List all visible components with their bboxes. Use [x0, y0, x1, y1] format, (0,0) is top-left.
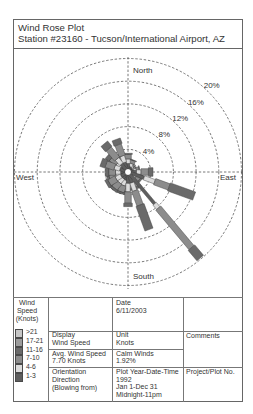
display-label: Display: [52, 331, 90, 339]
date-value: 6/11/2003: [116, 307, 147, 315]
label-east: East: [220, 173, 237, 182]
unit-value: Knots: [116, 339, 134, 347]
orientation-cell: Orientation Direction (Blowing from): [52, 368, 97, 391]
calm-winds-value: 1.92%: [116, 357, 154, 365]
ring-label-12pct: 12%: [172, 114, 188, 123]
table-divider-col3: [183, 297, 184, 402]
legend-title-line: Speed: [13, 307, 41, 315]
avg-wind-speed-value: 7.70 Knots: [52, 357, 106, 365]
project-label: Project/Plot No.: [186, 368, 235, 376]
petal-segment-11-16: [136, 204, 153, 231]
calm-winds-cell: Calm Winds 1.92%: [116, 350, 154, 366]
plot-period-year: 1992: [116, 376, 179, 384]
petal-segment-4-6: [143, 176, 155, 184]
legend-swatch-4-6: [15, 364, 23, 373]
display-cell: Display Wind Speed: [52, 331, 90, 347]
label-south: South: [133, 272, 154, 281]
ring-label-8pct: 8%: [159, 130, 171, 139]
label-north: North: [133, 66, 153, 75]
avg-wind-speed-label: Avg. Wind Speed: [52, 350, 106, 358]
petal-segment-7-10: [154, 179, 171, 190]
petal-segment-11-16: [105, 168, 108, 177]
legend-title-line: (Knots): [13, 315, 41, 323]
comments-cell: Comments: [186, 332, 220, 340]
petal-segment-4-6: [126, 183, 130, 192]
calm-circle: [125, 169, 132, 176]
label-west: West: [16, 173, 35, 182]
petal-segment-11-16: [148, 168, 153, 177]
comments-label: Comments: [186, 332, 220, 340]
ring-label-4pct: 4%: [143, 147, 155, 156]
petal-segment-7-10: [156, 206, 194, 250]
ring-label-20pct: 20%: [204, 81, 220, 90]
petal-segment-11-16: [124, 203, 133, 206]
plot-period-cell: Plot Year-Date-Time 1992 Jan 1-Dec 31 Mi…: [116, 368, 179, 398]
calm-winds-label: Calm Winds: [116, 350, 154, 358]
legend-title: Wind Speed (Knots): [13, 299, 41, 322]
legend-swatch-7-10: [15, 355, 23, 364]
legend-swatch-gt21: [15, 329, 23, 338]
plot-period-hours: Midnight-11pm: [116, 391, 179, 399]
petal-segment-11-16: [168, 183, 196, 200]
ring-label-16pct: 16%: [188, 98, 204, 107]
legend-label: >21: [26, 328, 38, 337]
legend-swatch-17-21: [15, 338, 23, 347]
orientation-line: (Blowing from): [52, 384, 97, 392]
legend-swatch-1-3: [15, 373, 23, 382]
orientation-line: Orientation: [52, 368, 97, 376]
legend-label: 4-6: [26, 363, 36, 372]
unit-label: Unit: [116, 331, 134, 339]
display-value: Wind Speed: [52, 339, 90, 347]
project-cell: Project/Plot No.: [186, 368, 235, 376]
legend-label: 11-16: [26, 346, 43, 355]
avg-wind-speed-cell: Avg. Wind Speed 7.70 Knots: [52, 350, 106, 366]
date-cell: Date 6/11/2003: [116, 299, 147, 315]
legend-title-line: Wind: [13, 299, 41, 307]
unit-cell: Unit Knots: [116, 331, 134, 347]
ring-labels: 4%8%12%16%20%: [143, 81, 220, 155]
legend-swatch-11-16: [15, 347, 23, 356]
plot-period-label: Plot Year-Date-Time: [116, 368, 179, 376]
petal-segment-7-10: [141, 169, 148, 176]
petal-segment-7-10: [125, 154, 132, 159]
wind-petals: [100, 138, 204, 261]
orientation-line: Direction: [52, 376, 97, 384]
legend-label: 17-21: [26, 337, 43, 346]
legend-label: 1-3: [26, 372, 36, 381]
plot-period-dates: Jan 1-Dec 31: [116, 383, 179, 391]
date-label: Date: [116, 299, 147, 307]
petal-segment-7-10: [132, 190, 143, 207]
petal-segment-7-10: [125, 192, 132, 203]
legend-label: 7-10: [26, 354, 40, 363]
